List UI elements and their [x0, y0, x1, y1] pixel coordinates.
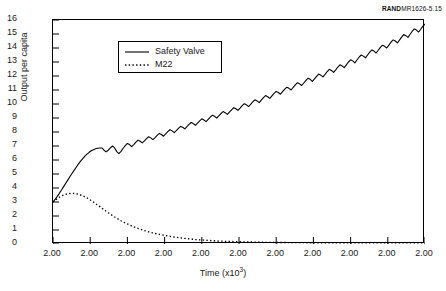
x-axis-tick-label: 2.00 — [183, 249, 219, 258]
x-axis-tick-label: 2.00 — [406, 249, 442, 258]
y-axis-tick-label: 7 — [0, 140, 17, 149]
x-axis-tick-label: 2.00 — [294, 249, 330, 258]
legend-item-safety-valve: Safety Valve — [124, 45, 205, 58]
legend-item-m22: M22 — [124, 58, 173, 71]
y-axis-tick-label: 8 — [0, 126, 17, 135]
legend-sample-solid-line — [124, 48, 150, 56]
figure-credit: RANDMR1626-5.15 — [382, 5, 442, 12]
x-axis-title: Time (x103) — [0, 266, 446, 278]
series-line-m22 — [53, 193, 425, 243]
chart-legend: Safety Valve M22 — [118, 41, 222, 73]
figure-container: RANDMR1626-5.15 Output per capita 012345… — [0, 0, 446, 291]
x-axis-tick-label: 2.00 — [257, 249, 293, 258]
y-axis-tick-label: 16 — [0, 14, 17, 23]
y-axis-tick-label: 1 — [0, 224, 17, 233]
x-axis-title-close: ) — [243, 268, 246, 278]
y-axis-tick-label: 11 — [0, 84, 17, 93]
y-axis-tick-label: 14 — [0, 42, 17, 51]
y-axis-tick-label: 5 — [0, 168, 17, 177]
y-axis-tick-label: 12 — [0, 70, 17, 79]
x-axis-tick-label: 2.00 — [332, 249, 368, 258]
y-axis-tick-label: 15 — [0, 28, 17, 37]
y-axis-tick-label: 0 — [0, 238, 17, 247]
y-axis-tick-label: 4 — [0, 182, 17, 191]
legend-label-safety-valve: Safety Valve — [155, 47, 205, 56]
y-axis-tick-label: 10 — [0, 98, 17, 107]
x-axis-tick-label: 2.00 — [146, 249, 182, 258]
x-axis-tick-label: 2.00 — [220, 249, 256, 258]
y-axis-title: Output per capita — [19, 7, 29, 127]
x-axis-tick-label: 2.00 — [369, 249, 405, 258]
figure-number-label: MR1626-5.15 — [401, 5, 442, 12]
y-axis-tick-label: 3 — [0, 196, 17, 205]
y-axis-tick-label: 9 — [0, 112, 17, 121]
series-line-safety-valve — [53, 24, 425, 202]
x-axis-title-text: Time (x10 — [200, 268, 240, 278]
x-axis-tick-label: 2.00 — [108, 249, 144, 258]
y-axis-tick-label: 13 — [0, 56, 17, 65]
legend-sample-dotted-line — [124, 61, 150, 69]
rand-brand-label: RAND — [382, 5, 401, 12]
x-axis-tick-label: 2.00 — [34, 249, 70, 258]
y-axis-tick-label: 2 — [0, 210, 17, 219]
legend-label-m22: M22 — [155, 60, 173, 69]
plot-svg — [53, 20, 425, 244]
plot-area — [52, 19, 424, 243]
y-axis-tick-label: 6 — [0, 154, 17, 163]
x-axis-tick-label: 2.00 — [71, 249, 107, 258]
